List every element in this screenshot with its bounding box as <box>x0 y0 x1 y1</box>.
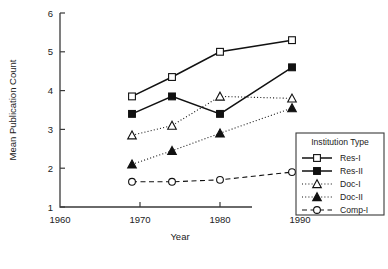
legend-marker-comp-i <box>314 207 321 214</box>
y-tick-label: 3 <box>48 124 53 135</box>
legend-label-res-ii: Res-II <box>340 166 363 176</box>
data-point-comp-i <box>129 178 136 185</box>
y-tick-label: 1 <box>48 202 53 213</box>
data-point-res-i <box>217 48 224 55</box>
legend-label-comp-i: Comp-I <box>340 205 368 215</box>
series-line-doc-ii <box>132 108 292 164</box>
y-axis-title: Mean Publication Count <box>7 59 18 160</box>
data-point-doc-i <box>128 131 137 139</box>
series-res-ii <box>129 64 296 117</box>
series-line-comp-i <box>132 172 292 182</box>
data-point-doc-ii <box>216 129 225 137</box>
x-tick-label: 1970 <box>129 214 150 225</box>
series-line-res-ii <box>132 67 292 114</box>
data-point-res-i <box>169 74 176 81</box>
legend-marker-res-ii <box>314 168 321 175</box>
data-point-doc-i <box>168 121 177 129</box>
data-point-doc-ii <box>168 146 177 154</box>
data-point-res-ii <box>217 110 224 117</box>
series-line-res-i <box>132 40 292 96</box>
legend-label-doc-i: Doc-I <box>340 179 361 189</box>
data-point-res-i <box>289 37 296 44</box>
data-point-res-ii <box>289 64 296 71</box>
data-point-res-ii <box>129 110 136 117</box>
legend-label-res-i: Res-I <box>340 153 361 163</box>
y-tick-label: 4 <box>48 85 53 96</box>
series-doc-ii <box>128 104 297 168</box>
data-point-doc-ii <box>128 160 137 168</box>
data-point-comp-i <box>217 176 224 183</box>
legend-label-doc-ii: Doc-II <box>340 192 363 202</box>
series-res-i <box>129 37 296 100</box>
y-tick-label: 6 <box>48 8 53 19</box>
legend-marker-res-i <box>314 155 321 162</box>
y-tick-label: 2 <box>48 163 53 174</box>
series-comp-i <box>129 169 296 186</box>
publication-count-line-chart: 1234561960197019801990YearMean Publicati… <box>0 0 388 269</box>
data-point-doc-i <box>288 94 297 102</box>
data-point-res-ii <box>169 93 176 100</box>
series-line-doc-i <box>132 96 292 135</box>
chart-container: 1234561960197019801990YearMean Publicati… <box>0 0 388 269</box>
data-point-res-i <box>129 93 136 100</box>
x-tick-label: 1960 <box>49 214 70 225</box>
x-axis-title: Year <box>170 231 189 242</box>
data-point-comp-i <box>169 178 176 185</box>
data-point-doc-i <box>216 92 225 100</box>
x-tick-label: 1980 <box>209 214 230 225</box>
legend-title: Institution Type <box>311 137 369 147</box>
data-point-doc-ii <box>288 104 297 112</box>
y-tick-label: 5 <box>48 46 53 57</box>
x-tick-label: 1990 <box>289 214 310 225</box>
data-point-comp-i <box>289 169 296 176</box>
